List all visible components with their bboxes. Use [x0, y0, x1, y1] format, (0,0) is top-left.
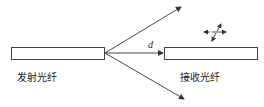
emitting-fiber-label: 发射光纤 [17, 73, 57, 83]
receiving-fiber [165, 48, 258, 60]
fiber-coupling-diagram: d 发射光纤 接收光纤 [0, 0, 264, 107]
gap-distance-label: d [148, 40, 153, 50]
emitting-fiber [12, 48, 105, 60]
diagram-canvas [0, 0, 264, 107]
receiving-fiber-label: 接收光纤 [180, 73, 220, 83]
movement-arrows-icon [204, 24, 226, 41]
ray-upper-arrow [105, 7, 181, 53]
